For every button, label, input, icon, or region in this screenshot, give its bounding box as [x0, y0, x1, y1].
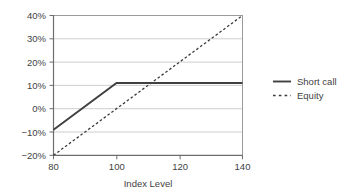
y-tick-label: −10%: [21, 127, 46, 138]
chart-legend: Short call Equity: [273, 76, 337, 101]
x-tick-marks: [54, 155, 243, 159]
series-line-short-call: [54, 83, 243, 130]
y-tick-label: 40%: [27, 10, 47, 21]
gridlines: [53, 16, 243, 133]
x-tick-label: 100: [109, 161, 125, 172]
x-tick-label: 120: [172, 161, 188, 172]
x-tick-label: 140: [235, 161, 251, 172]
y-tick-labels: 40% 30% 20% 10% 0% −10% −20%: [21, 10, 46, 161]
line-chart: 40% 30% 20% 10% 0% −10% −20% 80 100 120 …: [0, 0, 344, 196]
legend-label-short-call: Short call: [297, 76, 337, 87]
x-tick-labels: 80 100 120 140: [48, 161, 250, 172]
legend-label-equity: Equity: [297, 90, 324, 101]
x-tick-label: 80: [48, 161, 59, 172]
y-tick-label: 20%: [27, 57, 47, 68]
y-tick-label: −20%: [21, 150, 46, 161]
chart-container: 40% 30% 20% 10% 0% −10% −20% 80 100 120 …: [0, 0, 344, 196]
y-tick-label: 0%: [32, 103, 46, 114]
x-axis-title: Index Level: [124, 178, 173, 189]
y-tick-label: 10%: [27, 80, 47, 91]
y-tick-label: 30%: [27, 33, 47, 44]
